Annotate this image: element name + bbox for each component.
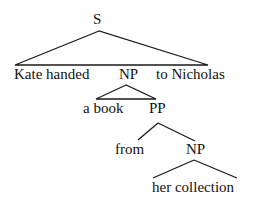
np2-right-edge [194,160,237,178]
node-np2: NP [186,142,205,157]
tree-edges [0,0,254,206]
node-kate-handed: Kate handed [14,67,89,82]
s-triangle [15,31,208,65]
node-s: S [93,12,101,27]
node-a-book: a book [83,101,123,116]
node-np1: NP [119,67,138,82]
node-to-nicholas: to Nicholas [156,67,225,82]
pp-to-np2-edge [158,123,195,141]
syntax-tree-diagram: S Kate handed NP to Nicholas a book PP f… [0,0,254,206]
np2-left-edge [153,160,194,178]
node-pp: PP [149,101,166,116]
pp-to-from-edge [138,123,158,140]
node-from: from [115,142,144,157]
np1-triangle [96,85,156,99]
node-her-collection: her collection [152,180,234,195]
